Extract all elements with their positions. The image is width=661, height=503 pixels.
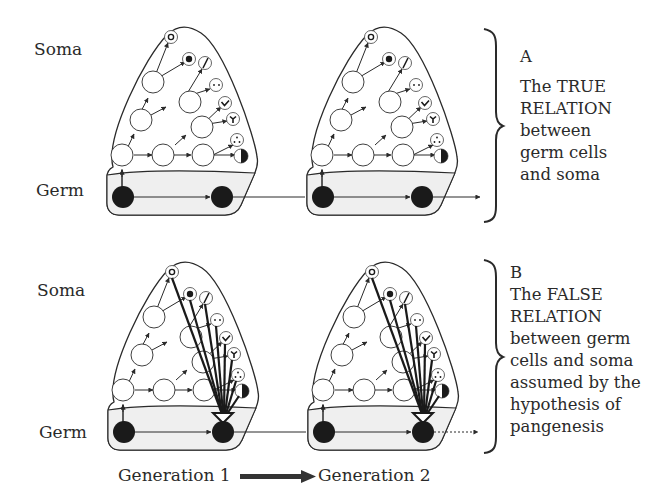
brace-a: [484, 29, 503, 222]
caption-b-letter: B: [510, 262, 641, 284]
caption-b-line: hypothesis of: [510, 394, 641, 416]
brace-b: [484, 260, 503, 453]
caption-b-line: cells and soma: [510, 350, 641, 372]
germ-cell: [312, 186, 334, 208]
caption-b-line: The FALSE: [510, 284, 641, 306]
organism-a-gen2: [307, 27, 480, 215]
germ-cell: [112, 186, 134, 208]
germ-cell: [113, 421, 135, 443]
panel-b: [108, 260, 503, 453]
generation-1-label: Generation 1: [118, 465, 231, 485]
generation-arrow: [240, 470, 316, 483]
caption-a-letter: A: [520, 46, 612, 68]
caption-a-line: and soma: [520, 164, 612, 186]
caption-b: B The FALSE RELATION between germ cells …: [510, 262, 641, 438]
caption-a-line: between: [520, 120, 612, 142]
caption-a-line: germ cells: [520, 142, 612, 164]
caption-b-line: between germ: [510, 328, 641, 350]
caption-b-line: RELATION: [510, 306, 641, 328]
caption-b-line: assumed by the: [510, 372, 641, 394]
organism-b-gen1: [108, 262, 259, 450]
caption-a: A The TRUE RELATION between germ cells a…: [520, 46, 612, 186]
organism-a-gen1: [107, 27, 258, 215]
caption-b-line: pangenesis: [510, 416, 641, 438]
germ-cell: [212, 421, 234, 443]
organism-b-gen2: [308, 262, 478, 450]
caption-a-line: RELATION: [520, 98, 612, 120]
caption-a-line: The TRUE: [520, 76, 612, 98]
panel-a: [107, 27, 503, 222]
germ-cell: [313, 421, 335, 443]
germ-cell: [211, 186, 233, 208]
germ-cell: [411, 186, 433, 208]
germ-cell: [412, 421, 434, 443]
generation-2-label: Generation 2: [318, 465, 431, 485]
